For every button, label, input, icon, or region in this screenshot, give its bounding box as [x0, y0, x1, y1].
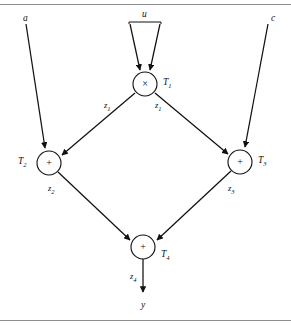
edge-label-z2: z2 — [48, 184, 55, 195]
input-label-a: a — [23, 14, 28, 24]
edge-label-z4: z4 — [130, 272, 137, 283]
node-T1-operator: × — [139, 79, 151, 89]
task-label-T1-sub: 1 — [168, 82, 171, 89]
edge-u-to-T1-left — [130, 24, 140, 70]
task-label-T2-sub: 2 — [23, 161, 26, 168]
node-T2-operator: + — [43, 158, 55, 168]
task-label-T4: T4 — [161, 250, 170, 261]
edge-label-z1-left: z1 — [104, 101, 111, 112]
edge-T1-to-T3 — [155, 93, 228, 154]
task-label-T2: T2 — [18, 157, 27, 168]
edge-T2-to-T4 — [58, 172, 130, 240]
figure-canvas: × + + + T1 T2 T3 T4 a u c y z1 z1 z2 z3 … — [0, 0, 291, 331]
node-T3-operator: + — [234, 157, 246, 167]
task-label-T1: T1 — [163, 78, 172, 89]
input-label-u: u — [142, 10, 147, 20]
edge-label-z1-left-sub: 1 — [107, 105, 110, 112]
edge-label-z2-sub: 2 — [51, 188, 54, 195]
edge-a-to-T2 — [26, 24, 45, 148]
task-label-T3-sub: 3 — [263, 160, 266, 167]
task-label-T3: T3 — [258, 156, 267, 167]
edge-T1-to-T2 — [62, 93, 135, 155]
edge-label-z3: z3 — [228, 184, 235, 195]
edge-c-to-T3 — [245, 24, 268, 147]
task-label-T4-sub: 4 — [166, 254, 169, 261]
node-T4-operator: + — [137, 242, 149, 252]
input-label-c: c — [271, 14, 275, 24]
edge-label-z1-right: z1 — [155, 101, 162, 112]
edge-label-z3-sub: 3 — [231, 188, 234, 195]
edge-label-z1-right-sub: 1 — [158, 105, 161, 112]
edge-T3-to-T4 — [157, 171, 231, 240]
output-label-y: y — [141, 301, 145, 311]
edge-u-to-T1-right — [150, 24, 160, 70]
edge-label-z4-sub: 4 — [133, 276, 136, 283]
